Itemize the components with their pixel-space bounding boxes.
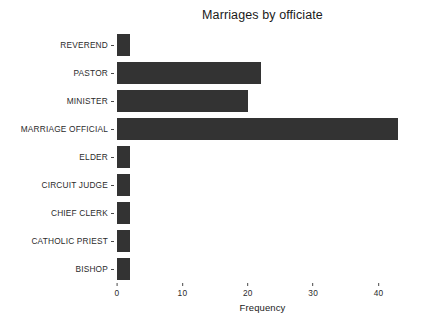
y-axis-tick-label: BISHOP [75, 264, 108, 274]
bar[interactable] [117, 202, 130, 224]
bar[interactable] [117, 174, 130, 196]
y-axis-tick-mark [111, 129, 114, 130]
plot-area: REVERENDPASTORMINISTERMARRIAGE OFFICIALE… [117, 31, 408, 283]
x-axis-tick-label: 30 [308, 288, 318, 298]
y-axis-tick-mark [111, 185, 114, 186]
y-axis-tick-label: MARRIAGE OFFICIAL [21, 124, 108, 134]
x-axis-tick-label: 40 [374, 288, 384, 298]
y-axis-tick-reverend: REVEREND [60, 31, 117, 59]
bar[interactable] [117, 146, 130, 168]
bar-row: CATHOLIC PRIEST [117, 227, 408, 255]
x-axis-tick-mark [116, 283, 117, 286]
chart-title: Marriages by officiate [117, 8, 408, 22]
y-axis-tick-mark [111, 73, 114, 74]
y-axis-tick-chief-clerk: CHIEF CLERK [51, 199, 117, 227]
x-axis-tick-mark [182, 283, 183, 286]
bar-row: REVEREND [117, 31, 408, 59]
y-axis-tick-label: ELDER [79, 152, 108, 162]
bar[interactable] [117, 90, 248, 112]
bar[interactable] [117, 62, 261, 84]
bar-row: MARRIAGE OFFICIAL [117, 115, 408, 143]
x-axis-tick-label: 20 [243, 288, 253, 298]
bar-row: PASTOR [117, 59, 408, 87]
y-axis-tick-mark [111, 157, 114, 158]
y-axis-tick-label: CATHOLIC PRIEST [31, 236, 108, 246]
y-axis-tick-label: REVEREND [60, 40, 108, 50]
y-axis-tick-label: CHIEF CLERK [51, 208, 108, 218]
bar[interactable] [117, 34, 130, 56]
y-axis-tick-bishop: BISHOP [75, 255, 117, 283]
bar-chart-figure: Marriages by officiate REVERENDPASTORMIN… [0, 0, 426, 323]
y-axis-tick-label: CIRCUIT JUDGE [41, 180, 108, 190]
y-axis-tick-elder: ELDER [79, 143, 117, 171]
bar-row: BISHOP [117, 255, 408, 283]
y-axis-tick-label: MINISTER [67, 96, 108, 106]
y-axis-tick-pastor: PASTOR [73, 59, 117, 87]
x-axis-tick-20: 20 [243, 283, 253, 298]
x-axis-tick-40: 40 [374, 283, 384, 298]
x-axis-tick-mark [247, 283, 248, 286]
bar[interactable] [117, 258, 130, 280]
bar[interactable] [117, 230, 130, 252]
x-axis-tick-30: 30 [308, 283, 318, 298]
x-axis-tick-mark [313, 283, 314, 286]
x-axis: 010203040 [117, 283, 408, 303]
bar[interactable] [117, 118, 398, 140]
x-axis-tick-0: 0 [115, 283, 120, 298]
y-axis-tick-label: PASTOR [73, 68, 108, 78]
bar-row: CIRCUIT JUDGE [117, 171, 408, 199]
bar-row: CHIEF CLERK [117, 199, 408, 227]
y-axis-tick-mark [111, 213, 114, 214]
y-axis-tick-circuit-judge: CIRCUIT JUDGE [41, 171, 117, 199]
y-axis-tick-mark [111, 241, 114, 242]
y-axis-tick-mark [111, 45, 114, 46]
bar-row: ELDER [117, 143, 408, 171]
x-axis-tick-mark [378, 283, 379, 286]
y-axis-tick-catholic-priest: CATHOLIC PRIEST [31, 227, 117, 255]
y-axis-tick-mark [111, 269, 114, 270]
y-axis-tick-minister: MINISTER [67, 87, 117, 115]
bar-row: MINISTER [117, 87, 408, 115]
x-axis-tick-label: 0 [115, 288, 120, 298]
y-axis-tick-marriage-official: MARRIAGE OFFICIAL [21, 115, 117, 143]
x-axis-tick-10: 10 [178, 283, 188, 298]
x-axis-label: Frequency [117, 302, 408, 313]
x-axis-tick-label: 10 [178, 288, 188, 298]
y-axis-tick-mark [111, 101, 114, 102]
